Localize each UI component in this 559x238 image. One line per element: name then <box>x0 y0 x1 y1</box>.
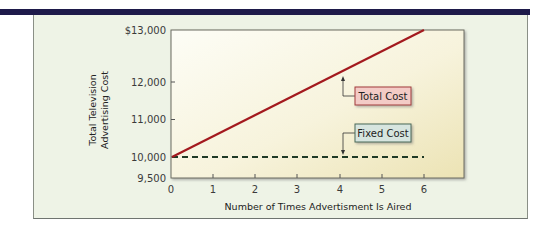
y-tick-12000: 12,000 <box>131 77 166 88</box>
y-tick-11000: 11,000 <box>131 114 166 125</box>
x-tick-6: 6 <box>421 184 427 195</box>
fixed-cost-label: Fixed Cost <box>357 128 408 139</box>
x-axis-title: Number of Times Advertisment Is Aired <box>225 201 412 212</box>
x-tick-1: 1 <box>210 184 216 195</box>
x-tick-5: 5 <box>379 184 385 195</box>
x-tick-3: 3 <box>294 184 300 195</box>
y-tick-9500: 9,500 <box>137 173 166 184</box>
x-tick-4: 4 <box>337 184 343 195</box>
chart: $13,000 12,000 11,000 10,000 9,500 0 1 2… <box>0 0 559 238</box>
y-axis-title-line2: Advertising Cost <box>99 71 110 149</box>
y-tick-13000: $13,000 <box>125 25 166 36</box>
plot-area <box>171 30 464 178</box>
x-tick-2: 2 <box>252 184 258 195</box>
x-tick-0: 0 <box>168 184 174 195</box>
y-tick-10000: 10,000 <box>131 152 166 163</box>
y-axis-title-line1: Total Television <box>87 74 98 146</box>
total-cost-label: Total Cost <box>358 91 408 102</box>
